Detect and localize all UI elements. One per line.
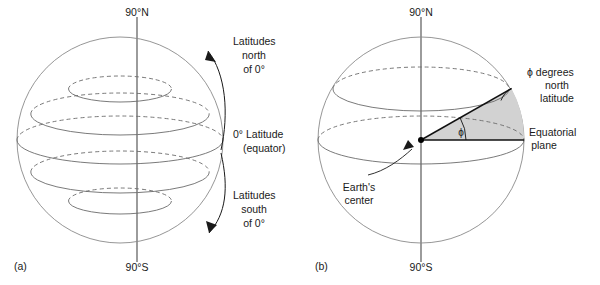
equatorial-plane-line1-b: Equatorial	[529, 126, 576, 138]
sphere-outline-a	[17, 37, 223, 243]
center-leader-path-b	[368, 149, 412, 175]
latitude-30s-back-a	[31, 151, 209, 172]
latitude-circle-30s-a	[31, 151, 209, 193]
pole-north-label-b: 90°N	[409, 6, 432, 18]
north-arrow-head-a	[205, 51, 216, 62]
equator-front-a	[17, 140, 223, 164]
panel-a: 90°N 90°S Latitudes north of 0° 0° Latit…	[14, 6, 286, 273]
south-arrow-a	[206, 153, 225, 233]
pole-south-label-a: 90°S	[126, 261, 149, 273]
latitude-60n-back-a	[69, 76, 172, 89]
latitude-circle-60n-a	[69, 76, 172, 102]
pole-south-label-b: 90°S	[410, 261, 433, 273]
equator-annotation-line2-a: (equator)	[243, 142, 286, 154]
latitude-circle-equator-a	[17, 116, 223, 164]
panel-id-a: (a)	[14, 260, 27, 272]
panel-id-b: (b)	[315, 260, 328, 272]
panel-b: 90°N 90°S ϕ degrees north latitude Equat…	[315, 6, 576, 273]
south-annotation-line1-a: Latitudes	[233, 189, 276, 201]
north-annotation-line3-a: of 0°	[243, 63, 265, 75]
latitude-60n-front-a	[69, 89, 172, 102]
phi-angle-symbol-b: ϕ	[458, 127, 464, 138]
latitude-circle-60s-a	[69, 188, 172, 214]
center-leader-b	[368, 140, 414, 175]
equator-annotation-line1-a: 0° Latitude	[233, 128, 283, 140]
phi-annotation-line2-b: north	[545, 79, 569, 91]
phi-annotation-line3-b: latitude	[540, 92, 574, 104]
north-annotation-line2-a: north	[242, 49, 266, 61]
latitude-60s-front-a	[69, 201, 172, 214]
north-annotation-line1-a: Latitudes	[233, 35, 276, 47]
latitude-30n-front-a	[31, 114, 209, 135]
earth-center-line1-b: Earth's	[343, 181, 375, 193]
south-annotation-line3-a: of 0°	[243, 217, 265, 229]
latitude-30s-front-a	[31, 172, 209, 193]
equator-back-a	[17, 116, 223, 140]
earth-center-line2-b: center	[344, 194, 374, 206]
center-leader-head-b	[403, 140, 414, 150]
latitude-wedge-b	[421, 89, 524, 141]
earth-center-dot-b	[418, 137, 424, 143]
latitude-30n-back-a	[31, 93, 209, 114]
south-arrow-head-a	[206, 221, 217, 233]
latitude-60s-back-a	[69, 188, 172, 201]
equatorial-plane-line2-b: plane	[531, 139, 557, 151]
south-arrow-path-a	[209, 153, 225, 233]
figure-svg: 90°N 90°S Latitudes north of 0° 0° Latit…	[0, 0, 600, 285]
south-annotation-line2-a: south	[241, 203, 267, 215]
latitude-circle-30n-a	[31, 93, 209, 135]
latitude-figure: 90°N 90°S Latitudes north of 0° 0° Latit…	[0, 0, 600, 285]
pole-north-label-a: 90°N	[125, 6, 148, 18]
phi-annotation-line1-b: ϕ degrees	[527, 66, 574, 78]
